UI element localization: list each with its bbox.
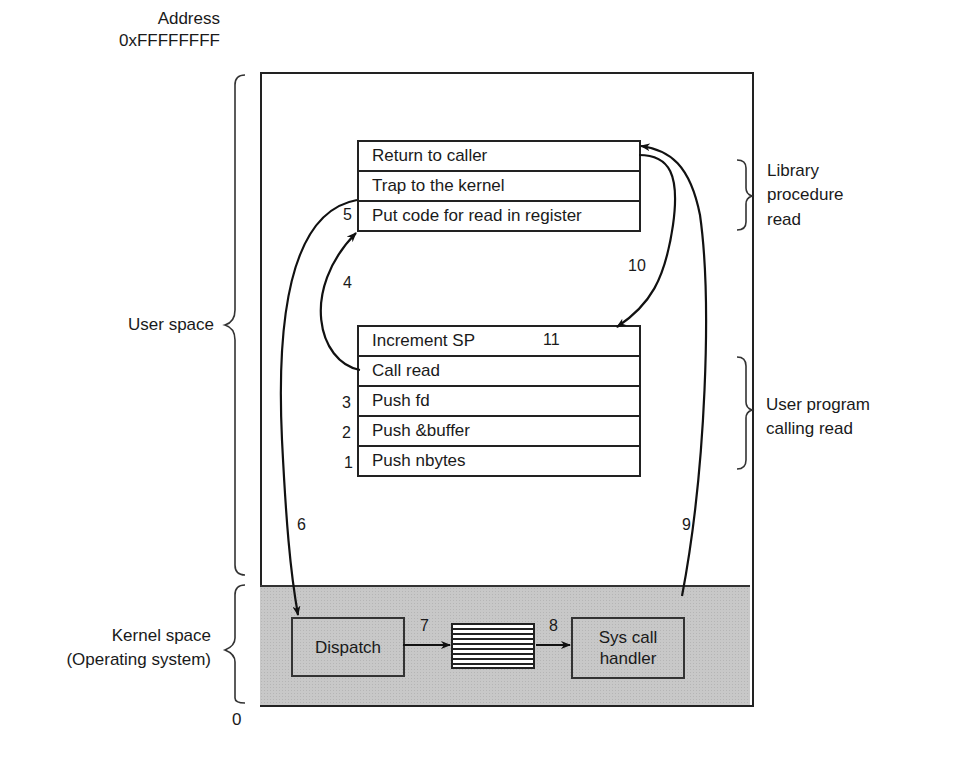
step-7-label: 7: [420, 617, 429, 635]
step-2-label: 2: [342, 424, 351, 442]
library-row-put-code: Put code for read in register: [359, 202, 639, 230]
step-1-label: 1: [344, 454, 353, 472]
operating-system-label: (Operating system): [20, 649, 211, 670]
step-9-label: 9: [682, 516, 691, 534]
address-title: Address: [140, 8, 220, 29]
user-program-label-2: calling read: [766, 418, 853, 439]
row-text: Push nbytes: [372, 451, 466, 470]
user-row-push-fd: Push fd: [359, 387, 639, 417]
dispatch-box: Dispatch: [291, 617, 405, 677]
library-label-1: Library: [767, 160, 819, 181]
row-text: Put code for read in register: [372, 206, 582, 225]
user-program-label-1: User program: [766, 394, 870, 415]
row-text: Push fd: [372, 391, 430, 410]
user-row-call-read: Call read: [359, 357, 639, 387]
step-3-label: 3: [342, 394, 351, 412]
row-text: Push &buffer: [372, 421, 470, 440]
row-text: Increment SP: [372, 331, 475, 350]
step-5-label: 5: [343, 206, 352, 224]
syscall-table: [451, 623, 535, 669]
user-space-label: User space: [80, 314, 214, 335]
kernel-space-brace: [225, 585, 245, 703]
user-row-push-nbytes: Push nbytes: [359, 447, 639, 475]
sys-call-handler-label-2: handler: [600, 648, 657, 669]
library-label-2: procedure: [767, 184, 844, 205]
address-top-value: 0xFFFFFFFF: [90, 30, 220, 51]
step-6-label: 6: [297, 516, 306, 534]
user-row-push-buffer: Push &buffer: [359, 417, 639, 447]
row-text: Trap to the kernel: [372, 176, 505, 195]
step-11-label: 11: [543, 331, 560, 349]
user-space-brace: [225, 75, 245, 575]
sys-call-handler-box: Sys call handler: [571, 617, 685, 679]
library-row-return: Return to caller: [359, 142, 639, 172]
step-4-label: 4: [343, 274, 352, 292]
step-10-label: 10: [628, 257, 646, 275]
library-procedure-box: Return to caller Trap to the kernel Put …: [357, 140, 641, 232]
user-row-increment-sp: Increment SP: [359, 327, 639, 357]
library-row-trap: Trap to the kernel: [359, 172, 639, 202]
user-program-box: Increment SP Call read Push fd Push &buf…: [357, 325, 641, 477]
kernel-space-label: Kernel space: [40, 625, 211, 646]
dispatch-label: Dispatch: [315, 637, 381, 658]
step-8-label: 8: [549, 617, 558, 635]
row-text: Call read: [372, 361, 440, 380]
sys-call-handler-label-1: Sys call: [599, 627, 658, 648]
address-bottom-value: 0: [232, 709, 241, 730]
row-text: Return to caller: [372, 146, 487, 165]
library-label-3: read: [767, 209, 801, 230]
